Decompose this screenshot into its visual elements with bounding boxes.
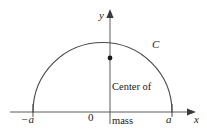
y-axis-arrowhead [106,9,113,18]
semicircle-center-of-mass-figure: y x 0 −a a C Center of mass [0,0,207,134]
x-axis-label: x [194,114,199,126]
origin-label: 0 [88,112,94,124]
center-of-mass-label-line1: Center of [112,81,151,92]
x-tick-label-negative-a: −a [21,114,34,126]
center-of-mass-label-line2: mass [112,115,151,126]
y-axis-label: y [99,10,104,22]
x-tick-label-positive-a: a [166,114,172,126]
center-of-mass-label: Center of mass [112,58,151,134]
curve-label-c: C [152,39,159,51]
